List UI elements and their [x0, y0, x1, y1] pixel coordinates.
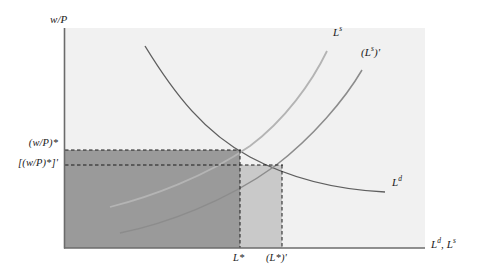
x-tick-label-original-labor: L* — [233, 253, 244, 264]
y-tick-label-original-wage: (w/P)* — [0, 138, 58, 149]
curve-label-ls-prime-suffix: )' — [374, 46, 380, 58]
curve-label-labor-supply-original: Ls — [333, 27, 342, 38]
curve-label-labor-demand: Ld — [392, 177, 402, 188]
labor-market-diagram: w/P Ld, Ls (w/P)* [(w/P)*]' L* (L*)' Ls … — [0, 0, 479, 279]
diagram-canvas — [0, 0, 479, 279]
x-axis-title: Ld, Ls — [431, 239, 456, 250]
curve-label-labor-supply-shifted: (Ls)' — [361, 47, 380, 58]
x-tick-label-new-labor: (L*)' — [266, 253, 287, 264]
y-axis-title: w/P — [50, 14, 67, 25]
curve-label-ls-superscript: s — [339, 24, 342, 33]
x-axis-title-supply-superscript: s — [453, 236, 456, 245]
y-tick-label-new-wage: [(w/P)*]' — [0, 158, 58, 169]
curve-label-ld-superscript: d — [398, 174, 402, 183]
